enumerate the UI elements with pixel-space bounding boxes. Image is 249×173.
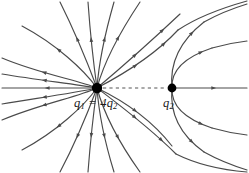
field-direction-arrow: [115, 35, 121, 41]
field-direction-arrow: [75, 36, 80, 42]
charge-marker-q1: [92, 83, 102, 93]
field-direction-arrow: [75, 133, 80, 139]
q1-relation: = 4: [85, 96, 107, 110]
charge-label-q1: q1 = 4q2: [74, 96, 118, 111]
electric-field-diagram: q1 = 4q2 q2: [0, 0, 249, 173]
field-direction-arrow: [41, 70, 47, 75]
field-direction-arrow: [41, 103, 47, 108]
field-direction-arrow: [89, 37, 93, 42]
field-line: [2, 74, 97, 88]
field-direction-arrow: [198, 121, 204, 126]
field-line: [178, 1, 247, 30]
charge-marker-q2: [168, 84, 177, 93]
field-line: [176, 154, 247, 172]
field-arrow-group: [41, 27, 216, 144]
field-direction-arrow: [89, 133, 93, 138]
q2-subscript: 2: [169, 101, 173, 111]
field-line: [97, 30, 178, 88]
field-line: [172, 88, 204, 152]
field-line: [2, 58, 97, 88]
field-line: [212, 41, 247, 48]
field-line: [204, 152, 247, 170]
field-line-group: [2, 1, 247, 172]
field-lines-canvas: [0, 0, 249, 173]
field-direction-arrow: [211, 86, 216, 90]
field-direction-arrow: [198, 50, 204, 55]
field-direction-arrow: [45, 86, 50, 90]
charge-label-q2: q2: [163, 96, 174, 111]
field-line: [212, 128, 247, 135]
field-line: [97, 14, 180, 88]
q1-rhs-subscript: 2: [113, 101, 117, 111]
